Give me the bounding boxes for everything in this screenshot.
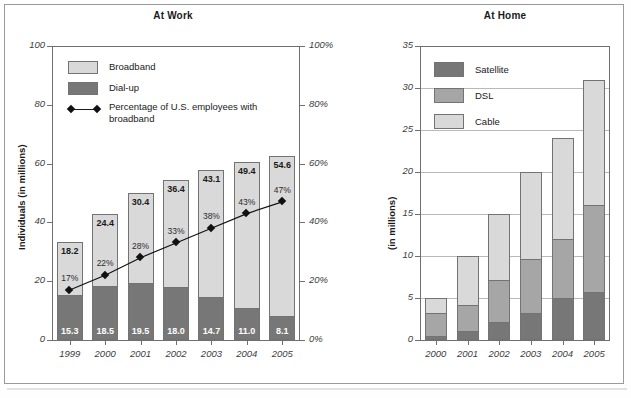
y-tick-label-0: 0 [382, 333, 413, 344]
chart-at-home: 05101520253035200020012002200320042005Sa… [420, 46, 610, 340]
bar-segment-cable-2001 [457, 256, 479, 306]
legend-at-home: SatelliteDSLCable [434, 60, 584, 138]
gridline-5 [421, 298, 609, 299]
gridline-15 [421, 214, 609, 215]
y-tick-label-left-80: 80 [7, 98, 45, 109]
legend-diamond-right-icon [93, 105, 101, 113]
x-axis [420, 340, 610, 341]
legend-at-work: BroadbandDial-upPercentage of U.S. emplo… [68, 60, 283, 133]
bar-segment-satellite-2001 [457, 331, 479, 340]
x-tick-2004 [563, 340, 564, 345]
bar-segment-dsl-2002 [488, 280, 510, 323]
y-tick-30 [415, 88, 420, 89]
y-tick-right-80 [300, 105, 305, 106]
y-tick-label-right-0: 0% [309, 333, 349, 344]
legend-swatch-dsl [434, 88, 464, 103]
y-tick-0 [415, 340, 420, 341]
x-tick-2002 [499, 340, 500, 345]
legend-label-broadband: Broadband [109, 60, 155, 73]
figure-root: At Work 0204060801000%20%40%60%80%100%18… [0, 0, 631, 398]
legend-entry-dialup: Dial-up [68, 81, 283, 97]
legend-diamond-left-icon [67, 105, 75, 113]
bar-segment-dsl-2000 [425, 313, 447, 337]
y-tick-label-20: 20 [382, 165, 413, 176]
chart-title-at-home: At Home [400, 10, 610, 21]
bar-segment-cable-2002 [488, 214, 510, 281]
x-tick-2003 [531, 340, 532, 345]
chart-at-work: 0204060801000%20%40%60%80%100%18.215.319… [52, 46, 300, 340]
legend-entry-cable: Cable [434, 112, 584, 132]
bar-segment-satellite-2004 [552, 298, 574, 340]
y-tick-label-left-0: 0 [7, 333, 45, 344]
bar-segment-cable-2000 [425, 298, 447, 314]
bar-segment-cable-2003 [520, 172, 542, 260]
legend-label-satellite: Satellite [475, 62, 509, 77]
y-tick-label-left-20: 20 [7, 274, 45, 285]
bar-segment-cable-2005 [583, 80, 605, 206]
y-tick-35 [415, 46, 420, 47]
y-tick-20 [415, 172, 420, 173]
legend-entry-broadband: Broadband [68, 60, 283, 76]
line-value-2004: 43% [225, 197, 269, 207]
y-tick-label-right-20: 20% [309, 274, 349, 285]
gridline-10 [421, 256, 609, 257]
y-tick-25 [415, 130, 420, 131]
legend-entry-percentage: Percentage of U.S. employees with broadb… [68, 102, 283, 128]
y-tick-label-25: 25 [382, 123, 413, 134]
line-value-2003: 38% [189, 211, 233, 221]
y-tick-label-right-80: 80% [309, 98, 349, 109]
y-tick-right-40 [300, 222, 305, 223]
line-value-2000: 22% [83, 258, 127, 268]
y-tick-10 [415, 256, 420, 257]
chart-title-at-work: At Work [28, 10, 318, 21]
y-tick-15 [415, 214, 420, 215]
bar-segment-cable-2004 [552, 138, 574, 240]
y-tick-label-right-100: 100% [309, 39, 349, 50]
line-value-1999: 17% [48, 273, 92, 283]
y-tick-5 [415, 298, 420, 299]
axis-label-individuals: Individuals (in millions) [16, 144, 27, 250]
bar-segment-dsl-2001 [457, 305, 479, 332]
x-tick-2005 [594, 340, 595, 345]
x-tick-2001 [468, 340, 469, 345]
figure-shadow [7, 388, 627, 390]
bar-segment-satellite-2002 [488, 322, 510, 340]
bar-segment-dsl-2004 [552, 239, 574, 299]
y-axis [420, 46, 421, 341]
y-tick-label-right-60: 60% [309, 157, 349, 168]
y-tick-right-20 [300, 281, 305, 282]
y-tick-label-35: 35 [382, 39, 413, 50]
bar-segment-satellite-2003 [520, 313, 542, 340]
legend-label-cable: Cable [475, 114, 500, 129]
legend-label-percentage: Percentage of U.S. employees with broadb… [109, 101, 269, 124]
legend-label-dsl: DSL [475, 88, 493, 103]
gridline-20 [421, 172, 609, 173]
legend-swatch-dialup [68, 82, 98, 95]
legend-label-dialup: Dial-up [109, 81, 139, 94]
plot-right-border [609, 46, 610, 341]
y-tick-label-right-40: 40% [309, 215, 349, 226]
y-tick-right-0 [300, 340, 305, 341]
legend-entry-dsl: DSL [434, 86, 584, 106]
bar-segment-dsl-2003 [520, 259, 542, 315]
y-tick-label-5: 5 [382, 291, 413, 302]
plot-top-border [420, 46, 610, 47]
legend-swatch-broadband [68, 61, 98, 74]
y-tick-label-10: 10 [382, 249, 413, 260]
x-tick-label-2005: 2005 [572, 348, 616, 359]
line-value-2001: 28% [119, 241, 163, 251]
bar-segment-satellite-2005 [583, 292, 605, 340]
y-tick-label-left-100: 100 [7, 39, 45, 50]
x-tick-2000 [436, 340, 437, 345]
x-tick-label-2005: 2005 [260, 348, 304, 359]
y-tick-right-100 [300, 46, 305, 47]
y-tick-label-30: 30 [382, 81, 413, 92]
line-value-2005: 47% [260, 185, 304, 195]
legend-entry-satellite: Satellite [434, 60, 584, 80]
line-value-2002: 33% [154, 226, 198, 236]
bar-segment-dsl-2005 [583, 205, 605, 293]
axis-label-in-millions: (in millions) [386, 197, 397, 250]
legend-swatch-cable [434, 114, 464, 129]
legend-swatch-satellite [434, 62, 464, 77]
